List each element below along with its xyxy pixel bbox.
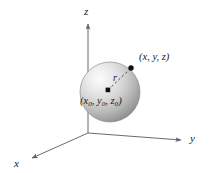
surface-point-label: (x, y, z): [139, 52, 169, 63]
radius-label: r: [113, 73, 117, 83]
center-label-close: ): [118, 95, 122, 106]
x-axis: [32, 133, 88, 158]
y-axis: [88, 133, 181, 140]
center-point-marker: [106, 88, 111, 93]
center-label-open: (x: [80, 95, 88, 106]
diagram-canvas: [0, 0, 211, 173]
x-axis-label: x: [14, 158, 19, 169]
sphere-diagram-figure: z y x (x, y, z) (x0, y0, z0) r: [0, 0, 211, 173]
center-label-mid-1: , y: [92, 95, 102, 106]
center-point-label: (x0, y0, z0): [80, 96, 122, 108]
surface-point-marker: [128, 65, 133, 70]
y-axis-label: y: [190, 133, 195, 144]
z-axis-label: z: [84, 6, 88, 17]
center-label-mid-2: , z: [105, 95, 114, 106]
